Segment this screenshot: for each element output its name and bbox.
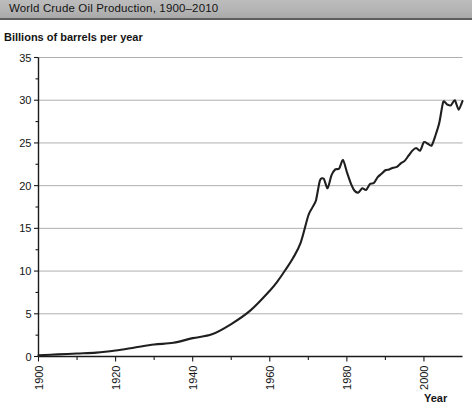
svg-text:15: 15 [19, 222, 31, 234]
svg-text:0: 0 [25, 351, 31, 363]
svg-text:1900: 1900 [33, 366, 45, 390]
svg-text:25: 25 [19, 137, 31, 149]
svg-text:1960: 1960 [264, 366, 276, 390]
y-tick-labels: 05101520253035 [19, 52, 31, 363]
svg-text:1920: 1920 [110, 366, 122, 390]
svg-text:20: 20 [19, 180, 31, 192]
svg-text:35: 35 [19, 52, 31, 64]
data-series-line [39, 100, 463, 355]
svg-text:2000: 2000 [418, 366, 430, 390]
x-tick-labels: 190019201940196019802000 [33, 366, 430, 390]
svg-text:1980: 1980 [341, 366, 353, 390]
svg-text:10: 10 [19, 265, 31, 277]
line-chart: 05101520253035 190019201940196019802000 [0, 0, 472, 416]
svg-text:1940: 1940 [187, 366, 199, 390]
svg-text:5: 5 [25, 308, 31, 320]
gridlines [39, 58, 463, 314]
svg-text:30: 30 [19, 94, 31, 106]
x-axis-ticks [39, 357, 424, 362]
